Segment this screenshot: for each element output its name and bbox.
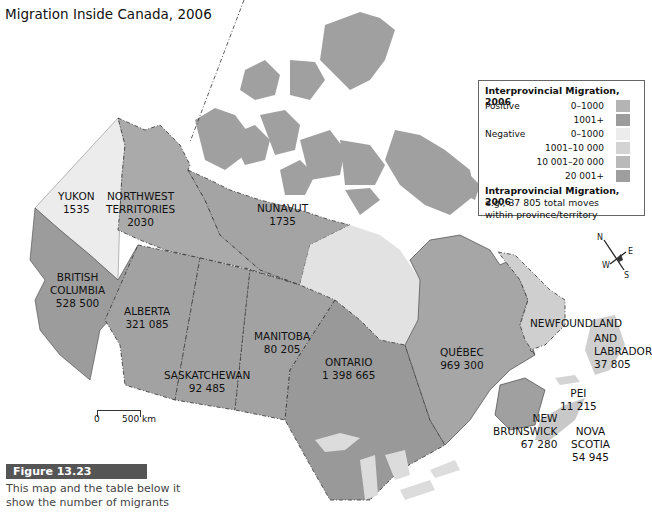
region-pei (555, 375, 580, 385)
label-newfoundland: AND LABRADOR 37 805 (594, 332, 652, 371)
label-alberta: ALBERTA 321 085 (124, 305, 170, 331)
svg-text:W: W (602, 261, 610, 270)
label-saskatchewan: SASKATCHEWAN 92 485 (164, 369, 250, 395)
compass-rose-icon: N W E S (590, 230, 640, 278)
legend-swatch-neg-0 (616, 128, 630, 140)
svg-text:N: N (597, 233, 603, 242)
label-manitoba: MANITOBA 80 205 (254, 330, 310, 356)
arctic-islands (195, 12, 480, 215)
legend-swatch-neg-3 (616, 170, 630, 182)
label-pei: PEI 11 215 (560, 387, 597, 413)
legend-neg-range-1: 1001–10 000 (545, 143, 604, 153)
legend-neg-range-0: 0–1000 (571, 129, 604, 139)
label-ontario: ONTARIO 1 398 665 (322, 356, 375, 382)
figure-label: Figure 13.23 (6, 464, 147, 479)
legend-neg-range-3: 20 001+ (565, 171, 604, 181)
legend-swatch-neg-1 (616, 142, 630, 154)
legend-swatch-pos-1 (616, 114, 630, 126)
legend-neg-range-2: 10 001–20 000 (537, 157, 604, 167)
label-bc: BRITISH COLUMBIA 528 500 (50, 271, 105, 310)
legend-intra-example: e.g., 37 805 total moves within province… (485, 197, 599, 221)
label-quebec: QUÉBEC 969 300 (440, 346, 484, 372)
legend-pos-range-0: 0–1000 (571, 101, 604, 111)
legend-pos-range-1: 1001+ (574, 115, 604, 125)
legend-swatch-pos-0 (616, 100, 630, 112)
legend-swatch-neg-2 (616, 156, 630, 168)
legend-negative-label: Negative (485, 129, 525, 139)
svg-text:E: E (628, 247, 633, 256)
label-nunavut: NUNAVUT 1735 (257, 202, 308, 228)
label-new-brunswick: NEW BRUNSWICK 67 280 (493, 412, 557, 451)
scale-start: 0 (94, 414, 100, 424)
legend-positive-label: Positive (485, 101, 520, 111)
label-nwt: NORTHWEST TERRITORIES 2030 (106, 190, 175, 229)
map-legend: Interprovincial Migration, 2006 Positive… (478, 80, 645, 216)
label-nova-scotia: NOVA SCOTIA 54 945 (571, 425, 610, 464)
label-yukon: YUKON 1535 (58, 190, 95, 216)
svg-text:S: S (624, 271, 629, 278)
figure-caption: This map and the table below it show the… (6, 482, 180, 510)
scale-end: 500 km (122, 414, 156, 424)
label-newfoundland-name1: NEWFOUNDLAND (530, 317, 622, 330)
